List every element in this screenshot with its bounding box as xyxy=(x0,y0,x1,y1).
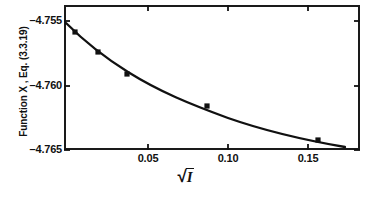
y-tick-label-0: –4.755 xyxy=(30,15,62,26)
x-axis-title: √I xyxy=(0,167,369,187)
sqrt-icon: √I xyxy=(175,167,193,187)
x-tick-label-2: 0.15 xyxy=(298,153,319,164)
y-axis-title: Function X , Eq. (3.3.19) xyxy=(18,7,29,157)
figure-scatter-plot: –4.755 –4.760 –4.765 0.05 0.10 0.15 Func… xyxy=(0,0,369,202)
x-tick-label-0: 0.05 xyxy=(138,153,159,164)
x-tick-label-1: 0.10 xyxy=(218,153,239,164)
plot-frame xyxy=(64,5,360,150)
x-axis-radicand: I xyxy=(186,168,194,186)
y-tick-label-1: –4.760 xyxy=(30,80,62,91)
y-tick-label-2: –4.765 xyxy=(30,144,62,155)
